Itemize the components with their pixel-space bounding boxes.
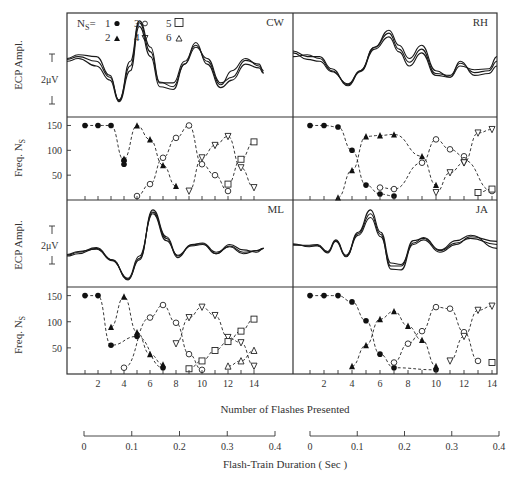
ecp-trace-ml [67,212,264,280]
x-tick-label: 8 [406,378,411,389]
freq-tick-label: 150 [47,120,62,131]
x-tick-label: 12 [459,378,469,389]
freq-axis-label-bottom: Freq. NS [12,316,27,354]
filled-triangle-marker [121,293,127,299]
open-square-marker [238,328,244,334]
filled-circle-marker [391,365,397,371]
filled-circle-marker [95,123,101,129]
filled-circle-marker [349,299,355,305]
open-circle-marker [186,351,192,357]
filled-circle-marker [121,161,127,167]
duration-tick-label: 0.2 [173,441,186,452]
open-circle-marker [173,320,179,326]
filled-triangle-marker [108,324,114,330]
open-triangle-down-marker [238,165,244,171]
open-circle-marker [225,188,231,194]
x-tick-label: 14 [487,378,497,389]
filled-circle-marker [108,342,114,348]
open-square-marker [475,190,481,196]
open-triangle-down-marker [199,155,205,161]
x-tick-label: 6 [378,378,383,389]
filled-triangle-marker [147,351,153,357]
legend-filled-circle-icon [114,21,119,26]
x-tick-label: 4 [350,378,355,389]
x-tick-label: 4 [122,378,127,389]
ecp-trace-ja [293,214,497,270]
open-square-marker [489,186,495,192]
open-triangle-down-marker [433,190,439,196]
open-circle-marker [475,358,481,364]
open-square-marker [212,347,218,353]
open-triangle-down-marker [461,333,467,339]
freq-panel-ml [82,293,257,374]
fit-curve [310,296,436,370]
x-tick-label: 8 [174,378,179,389]
freq-axis-label-top: Freq. NS [12,139,27,177]
open-triangle-down-marker [173,341,179,347]
filled-circle-marker [363,182,369,188]
open-triangle-down-marker [186,315,192,321]
filled-triangle-marker [349,167,355,173]
open-square-marker [251,316,257,322]
y-axis-labels: ECP Ampl. ECP Ampl. Freq. NS Freq. NS [12,40,27,354]
freq-tick-label: 50 [52,343,62,354]
duration-tick-label: 0 [308,441,313,452]
filled-triangle-marker [419,337,425,343]
fit-curve [228,142,254,184]
filled-circle-marker [349,148,355,154]
open-circle-marker [147,181,153,187]
ecp-trace-ml [67,210,264,279]
legend-n5: 5 [166,17,172,29]
open-circle-marker [199,161,205,167]
filled-triangle-marker [363,133,369,139]
filled-circle-marker [321,123,327,129]
duration-tick-label: 0 [82,441,87,452]
fit-curve [450,306,492,361]
freq-tick-label: 150 [47,291,62,302]
open-triangle-up-marker [251,347,257,353]
x-tick-label: 2 [322,378,327,389]
open-triangle-down-marker [238,340,244,346]
figure: NS= 1 2 3 4 5 6 CW RH ML JA ECP Ampl. EC… [0,0,515,482]
legend-prefix: NS= [77,17,96,32]
scale-bar-bottom: 2μV [41,226,59,264]
open-square-marker [251,139,257,145]
x-axis-ticks: 24681012142468101214 [96,378,498,389]
scale-bar-label: 2μV [41,74,59,85]
open-circle-marker [391,186,397,192]
open-circle-marker [433,137,439,143]
open-triangle-down-marker [199,304,205,310]
scale-bar-label: 2μV [41,240,59,251]
panel-title-rh: RH [473,16,488,28]
freq-tick-label: 100 [47,145,62,156]
filled-triangle-marker [160,162,166,168]
open-circle-marker [160,302,166,308]
filled-triangle-marker [134,122,140,128]
open-square-marker [199,358,205,364]
freq-panel-rh [307,123,495,201]
open-circle-marker [147,315,153,321]
duration-axes: 00.10.20.30.400.10.20.30.4 [82,431,506,452]
filled-triangle-marker [433,182,439,188]
legend-n1: 1 [105,17,111,29]
open-circle-marker [447,147,453,153]
legend-filled-triangle-icon [114,36,120,42]
freq-tick-label: 100 [47,317,62,328]
ecp-waveforms [67,21,497,280]
open-triangle-down-marker [212,312,218,318]
filled-circle-marker [377,351,383,357]
filled-circle-marker [95,293,101,299]
open-square-marker [489,360,495,366]
legend: NS= 1 2 3 4 5 6 [77,17,183,43]
duration-tick-label: 0.1 [126,441,139,452]
open-triangle-down-marker [186,188,192,194]
duration-tick-label: 0.4 [269,441,282,452]
open-triangle-down-marker [251,185,257,191]
open-circle-marker [173,135,179,141]
filled-circle-marker [307,123,313,129]
x-tick-label: 14 [249,378,259,389]
freq-tick-label: 50 [52,170,62,181]
open-square-marker [225,339,231,345]
freq-panel-cw [82,122,257,200]
open-circle-marker [160,155,166,161]
